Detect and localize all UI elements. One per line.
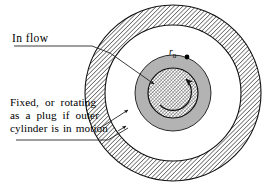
label-fixed-line-1: Fixed, or rotating [10,96,108,109]
outer-cylinder-wall [0,0,269,187]
label-radius-r0: r0 [169,47,176,60]
label-fixed-line-3: cylinder is in motion [10,122,108,135]
label-in-flow: In flow [12,32,48,46]
radius-marker-dot [185,55,190,60]
radius-subscript: 0 [173,52,177,60]
label-fixed-or-rotating: Fixed, or rotating as a plug if outer cy… [10,96,108,136]
annulus-diagram [0,0,269,187]
figure-container: In flow Fixed, or rotating as a plug if … [0,0,269,187]
label-fixed-line-2: as a plug if outer [10,109,108,122]
